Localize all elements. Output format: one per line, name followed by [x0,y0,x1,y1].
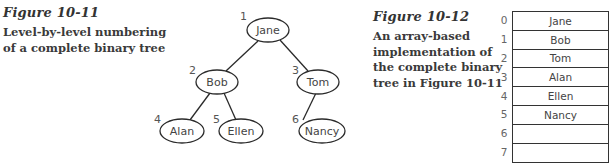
array-index: 3 [499,71,509,83]
node-label: Tom [306,76,329,89]
tree-node-ellen: 5 Ellen [213,113,263,143]
node-label: Ellen [228,125,255,138]
node-number: 6 [292,113,299,126]
array-cell-3: Alan [513,68,608,87]
tree-node-jane: 1 Jane [240,10,289,42]
array-index: 6 [499,127,509,139]
array-index: 1 [499,33,509,45]
figure-10-12-caption: An array-based implementation of the com… [373,29,503,91]
caption-line: An array-based [373,29,503,45]
array-index: 5 [499,108,509,120]
array-index: 4 [499,90,509,102]
array-table: Jane Bob Tom Alan Ellen Nancy [512,11,609,163]
node-number: 4 [154,113,161,126]
edge-tom-nancy [303,93,316,120]
figure-10-12-title: Figure 10-12 [373,9,469,24]
array-cell-7 [513,144,608,163]
edge-bob-ellen [224,93,236,120]
array-index: 7 [499,146,509,158]
array-cell-2: Tom [513,50,608,69]
array-index: 2 [499,52,509,64]
tree-node-tom: 3 Tom [292,64,339,94]
node-number: 1 [240,10,247,23]
tree-node-bob: 2 Bob [189,64,238,94]
node-label: Alan [170,125,194,138]
node-number: 3 [292,64,299,77]
caption-line: tree in Figure 10-11 [373,76,503,92]
array-cell-1: Bob [513,31,608,50]
edge-bob-alan [190,93,210,120]
array-cell-5: Nancy [513,106,608,125]
edge-jane-bob [226,41,258,71]
node-label: Nancy [305,125,340,138]
tree-node-alan: 4 Alan [154,113,204,143]
node-label: Bob [206,76,227,89]
caption-line: implementation of [373,45,503,61]
caption-line: the complete binary [373,60,503,76]
node-number: 5 [213,113,220,126]
array-index: 0 [499,14,509,26]
array-cell-6 [513,125,608,144]
tree-node-nancy: 6 Nancy [292,113,345,143]
node-number: 2 [189,64,196,77]
node-label: Jane [255,24,280,37]
array-cell-0: Jane [513,12,608,31]
array-cell-4: Ellen [513,87,608,106]
binary-tree-diagram: 1 Jane 2 Bob 3 Tom 4 Alan 5 Ellen 6 Nanc… [0,0,370,163]
